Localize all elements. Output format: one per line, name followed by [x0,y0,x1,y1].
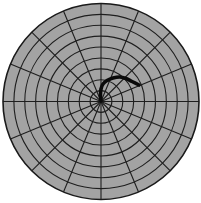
polar-grid-diagram [0,0,201,203]
